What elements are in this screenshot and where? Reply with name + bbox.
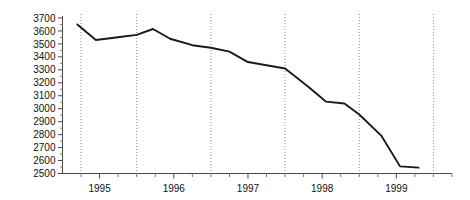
y-tick-label: 3000 bbox=[33, 103, 56, 114]
y-axis bbox=[58, 16, 63, 174]
y-tick-label: 2900 bbox=[33, 116, 56, 127]
x-tick-label: 1998 bbox=[311, 183, 334, 194]
x-tick-label: 1999 bbox=[385, 183, 408, 194]
x-tick-label: 1995 bbox=[88, 183, 111, 194]
y-tick-label: 3700 bbox=[33, 13, 56, 24]
y-tick-label: 3300 bbox=[33, 64, 56, 75]
y-tick-label: 3400 bbox=[33, 51, 56, 62]
x-tick-label: 1997 bbox=[237, 183, 260, 194]
y-tick-label: 2600 bbox=[33, 155, 56, 166]
y-tick-label: 3100 bbox=[33, 90, 56, 101]
y-tick-labels: 2500260027002800290030003100320033003400… bbox=[33, 13, 56, 180]
x-axis bbox=[63, 174, 453, 179]
vertical-gridlines bbox=[81, 14, 433, 174]
y-tick-label: 3200 bbox=[33, 77, 56, 88]
line-chart: 2500260027002800290030003100320033003400… bbox=[0, 0, 470, 200]
y-tick-label: 3600 bbox=[33, 26, 56, 37]
y-tick-label: 3500 bbox=[33, 39, 56, 50]
x-tick-label: 1996 bbox=[163, 183, 186, 194]
chart-canvas: 2500260027002800290030003100320033003400… bbox=[0, 0, 470, 200]
y-tick-label: 2800 bbox=[33, 129, 56, 140]
data-series-line bbox=[77, 24, 418, 167]
y-tick-label: 2500 bbox=[33, 168, 56, 179]
y-tick-label: 2700 bbox=[33, 142, 56, 153]
x-tick-labels: 19951996199719981999 bbox=[88, 183, 407, 194]
